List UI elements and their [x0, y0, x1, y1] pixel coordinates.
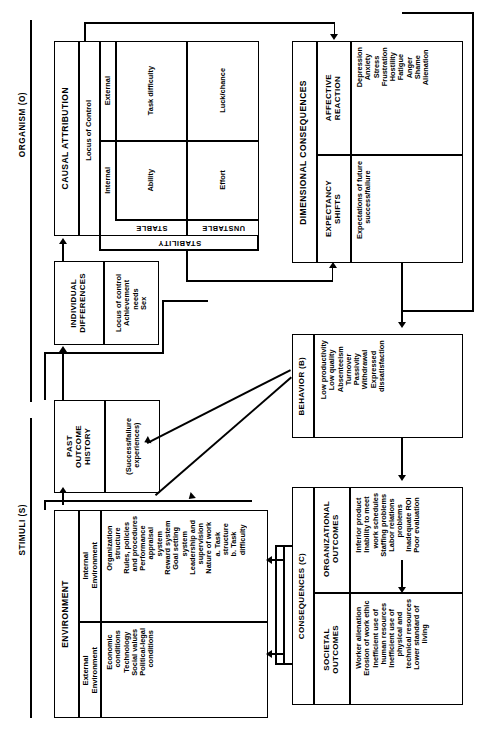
dimensional-consequences-title: DIMENSIONAL CONSEQUENCES: [292, 41, 316, 263]
arrow-causal-in-from-indiv: [59, 238, 67, 244]
behavior-title: BEHAVIOR (B): [292, 334, 313, 438]
environment-title: ENVIRONMENT: [54, 510, 78, 718]
causal-stability-band-left: [99, 236, 101, 250]
environment-external-label: External Environment: [79, 622, 101, 718]
causal-stability-axis-divider: [99, 219, 101, 236]
feedback-to-external-env: [272, 653, 285, 655]
connector-past-to-indiv: [62, 352, 64, 400]
connector-indiv-right-riser: [162, 300, 164, 353]
causal-stability-axis-label: STABILITY: [101, 236, 259, 250]
connector-causal-to-dimensional-v1: [84, 22, 86, 42]
organizational-outcomes-items: Inferior product Inability to meet work …: [351, 489, 462, 590]
connector-environment-to-behavior: [155, 377, 292, 496]
connector-behavior-to-past-outcome: [147, 370, 291, 445]
organism-label: ORGANISM (O): [16, 30, 30, 220]
behavior-items: Low productivity Low quality Absenteeism…: [316, 336, 462, 436]
organism-bracket-spine: [30, 20, 32, 402]
figure-canvas: STIMULI (S) ORGANISM (O) ENVIRONMENT Int…: [0, 0, 487, 738]
connector-indiv-to-causal: [62, 244, 64, 262]
environment-external-items: Economic conditions Technology Social va…: [102, 624, 268, 716]
connector-org-to-societal: [401, 560, 403, 590]
arrow-dimensional-in: [330, 34, 338, 40]
causal-stability-band-border: [99, 249, 259, 251]
causal-locus-axis-label: Locus of Control: [80, 41, 99, 219]
feedback-outer-bottom: [401, 310, 474, 312]
individual-differences-title: INDIVIDUAL DIFFERENCES: [54, 261, 103, 345]
environment-internal-label: Internal Environment: [79, 510, 101, 621]
causal-row-header-internal: Internal: [101, 141, 115, 219]
arrow-behavior-in: [398, 322, 406, 328]
connector-dimensional-to-behavior: [401, 263, 403, 323]
feedback-to-internal-env: [272, 559, 285, 561]
environment-row-divider: [78, 621, 268, 623]
expectancy-shifts-items: Expectations of future success/failure: [352, 157, 462, 262]
connector-indiv-right-top: [162, 300, 208, 302]
environment-internal-items: Organization structure Rules, policies a…: [102, 512, 268, 619]
arrow-consequences-in: [398, 475, 406, 481]
stimuli-bracket-spine: [30, 418, 32, 718]
arrow-past-outcome-up: [59, 487, 67, 493]
causal-row-header-external: External: [101, 41, 115, 140]
societal-outcomes-label: SOCIETAL OUTCOMES: [315, 594, 349, 704]
consequences-title: CONSEQUENCES (C): [292, 487, 313, 705]
connector-causal-to-expectancy-h: [186, 280, 333, 282]
connector-env-to-past-v: [44, 500, 46, 510]
arrow-external-env-in: [266, 650, 272, 658]
causal-cell-internal-unstable: Effort: [188, 141, 259, 219]
connector-expectancy-stub: [332, 265, 334, 281]
causal-cell-internal-stable: Ability: [117, 141, 186, 219]
causal-stability-band-right: [257, 236, 259, 250]
arrow-internal-env-in: [266, 556, 272, 564]
past-outcome-history-items: (Success/failure experiences): [106, 400, 160, 493]
connector-past-to-indiv-box-h: [44, 352, 164, 354]
societal-outcomes-items: Worker alienation Erosion of work ethic …: [351, 595, 462, 703]
causal-attribution-title: CAUSAL ATTRIBUTION: [54, 41, 78, 236]
affective-reaction-items: Depression Anxiety Stress Frustration Ho…: [352, 43, 462, 152]
arrow-societal-in: [398, 587, 406, 593]
past-outcome-history-title: PAST OUTCOME HISTORY: [54, 400, 104, 493]
feedback-outer-right: [472, 12, 474, 312]
feedback-consequences-spine: [283, 545, 285, 665]
causal-cell-external-stable: Task difficulty: [117, 41, 186, 140]
organizational-outcomes-label: ORGANIZATIONAL OUTCOMES: [315, 487, 349, 592]
stimuli-label: STIMULI (S): [16, 430, 30, 630]
connector-causal-to-expectancy-v: [186, 250, 188, 282]
causal-col-header-unstable: UNSTABLE: [188, 220, 259, 236]
feedback-outer-top: [402, 12, 474, 14]
feedback-consequences-join2: [275, 663, 293, 665]
connector-causal-to-dimensional-h: [84, 22, 335, 24]
behavior-title-divider: [313, 334, 315, 438]
causal-cell-external-unstable: Luck/chance: [188, 41, 259, 140]
affective-reaction-label: AFFECTIVE REACTION: [318, 41, 350, 154]
connector-past-to-indiv-box-v: [44, 352, 46, 400]
individual-differences-items: Locus of control Achievement needs Sex: [105, 261, 159, 345]
expectancy-shifts-label: EXPECTANCY SHIFTS: [318, 156, 350, 262]
causal-col-header-stable: STABLE: [117, 220, 186, 236]
feedback-consequences-spine2: [275, 545, 277, 665]
feedback-consequences-join: [275, 545, 293, 547]
page-number: [2, 731, 4, 738]
connector-past-riser: [62, 493, 64, 505]
connector-behavior-to-consequences: [401, 438, 403, 476]
connector-env-to-past-h: [44, 500, 252, 502]
